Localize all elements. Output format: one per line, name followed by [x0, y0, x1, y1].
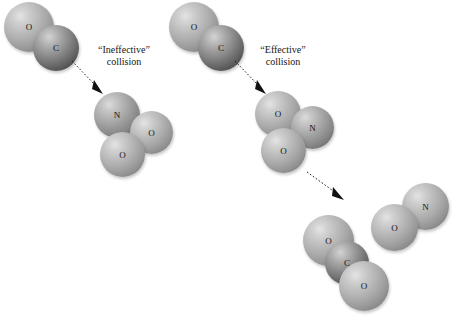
- atom-label-carbon: C: [33, 43, 79, 53]
- arrow-products-icon: [305, 170, 360, 210]
- atom-oxygen: O: [339, 261, 389, 311]
- atom-label-oxygen: O: [339, 281, 389, 291]
- molecule-no2-target-right: O N O: [252, 88, 344, 178]
- atom-oxygen: O: [371, 204, 418, 251]
- atom-label-carbon: C: [198, 43, 244, 53]
- atom-label-oxygen: O: [100, 150, 145, 160]
- atom-oxygen: O: [261, 128, 306, 173]
- label-effective-line1: “Effective”: [242, 44, 324, 56]
- atom-label-nitrogen: N: [94, 110, 140, 120]
- molecular-collision-diagram: O C “Ineffective” collision N O O O C: [0, 0, 453, 323]
- label-ineffective-line1: “Ineffective”: [80, 44, 168, 56]
- atom-oxygen: O: [100, 132, 145, 177]
- atom-label-nitrogen: N: [291, 123, 334, 133]
- atom-label-oxygen: O: [371, 223, 418, 233]
- molecule-no-product: N O: [368, 182, 453, 254]
- molecule-no2-target-left: N O O: [90, 90, 182, 180]
- atom-label-oxygen: O: [261, 146, 306, 156]
